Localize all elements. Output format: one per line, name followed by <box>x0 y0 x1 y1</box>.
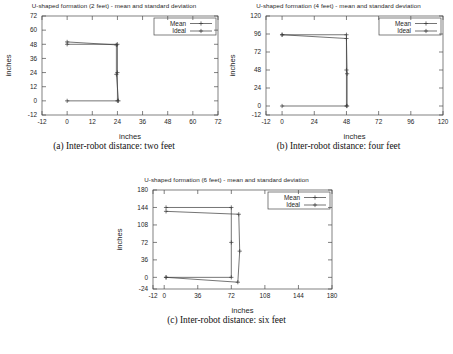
panel-b-chart: -12024487296120-12024487296120inchesinch… <box>226 9 451 141</box>
svg-text:72: 72 <box>30 12 38 19</box>
svg-text:180: 180 <box>327 292 338 299</box>
figure-panel-a: U-shaped formation (2 feet) - mean and s… <box>2 2 226 174</box>
panel-c-caption: (c) Inter-robot distance: six feet <box>113 315 340 325</box>
panel-a-chart: -120122436486072-120122436486072inchesin… <box>2 9 226 141</box>
panel-b-caption: (b) Inter-robot distance: four feet <box>226 141 451 151</box>
panel-c-chart: -2403672108144180-1203672108144180inches… <box>113 183 340 315</box>
svg-text:12: 12 <box>30 83 38 90</box>
svg-text:36: 36 <box>141 256 149 263</box>
panel-a-caption: (a) Inter-robot distance: two feet <box>2 141 226 151</box>
svg-text:48: 48 <box>164 118 172 125</box>
figure-panel-c: U-shaped formation (6 feet) - mean and s… <box>113 176 340 352</box>
svg-text:180: 180 <box>137 186 148 193</box>
svg-text:24: 24 <box>311 118 319 125</box>
svg-text:0: 0 <box>144 274 148 281</box>
svg-text:inches: inches <box>4 54 13 76</box>
svg-text:24: 24 <box>30 69 38 76</box>
svg-text:Ideal: Ideal <box>172 27 186 34</box>
svg-text:48: 48 <box>254 66 262 73</box>
svg-text:108: 108 <box>260 292 271 299</box>
svg-text:96: 96 <box>407 118 415 125</box>
svg-text:inches: inches <box>344 132 366 141</box>
svg-text:36: 36 <box>30 55 38 62</box>
svg-text:Mean: Mean <box>284 194 300 201</box>
svg-text:24: 24 <box>114 118 122 125</box>
panel-a-title: U-shaped formation (2 feet) - mean and s… <box>2 2 226 9</box>
svg-text:inches: inches <box>232 306 254 315</box>
figure-panel-b: U-shaped formation (4 feet) - mean and s… <box>226 2 451 174</box>
svg-text:0: 0 <box>65 118 69 125</box>
svg-text:Ideal: Ideal <box>397 27 411 34</box>
svg-text:0: 0 <box>257 102 261 109</box>
svg-text:-12: -12 <box>37 118 47 125</box>
svg-text:108: 108 <box>137 221 148 228</box>
svg-text:120: 120 <box>438 118 449 125</box>
svg-text:-12: -12 <box>261 118 271 125</box>
svg-text:72: 72 <box>141 239 149 246</box>
svg-text:72: 72 <box>254 48 262 55</box>
svg-text:0: 0 <box>280 118 284 125</box>
svg-text:36: 36 <box>139 118 147 125</box>
svg-text:72: 72 <box>214 118 222 125</box>
panel-b-title: U-shaped formation (4 feet) - mean and s… <box>226 2 451 9</box>
svg-text:-12: -12 <box>28 111 38 118</box>
svg-text:Mean: Mean <box>395 20 411 27</box>
svg-text:-12: -12 <box>252 111 262 118</box>
svg-text:-12: -12 <box>148 292 158 299</box>
svg-text:Mean: Mean <box>170 20 186 27</box>
svg-text:72: 72 <box>375 118 383 125</box>
svg-text:36: 36 <box>194 292 202 299</box>
panel-c-title: U-shaped formation (6 feet) - mean and s… <box>113 176 340 183</box>
svg-text:inches: inches <box>115 228 124 250</box>
svg-text:Ideal: Ideal <box>286 201 300 208</box>
svg-text:60: 60 <box>189 118 197 125</box>
svg-text:-24: -24 <box>139 285 149 292</box>
svg-text:0: 0 <box>162 292 166 299</box>
svg-text:12: 12 <box>89 118 97 125</box>
svg-text:inches: inches <box>119 132 141 141</box>
svg-text:48: 48 <box>30 41 38 48</box>
svg-text:inches: inches <box>228 54 237 76</box>
svg-text:96: 96 <box>254 30 262 37</box>
svg-text:48: 48 <box>343 118 351 125</box>
svg-text:72: 72 <box>228 292 236 299</box>
svg-text:24: 24 <box>254 84 262 91</box>
svg-text:0: 0 <box>33 97 37 104</box>
svg-text:144: 144 <box>293 292 304 299</box>
svg-text:144: 144 <box>137 204 148 211</box>
svg-text:120: 120 <box>250 12 261 19</box>
svg-text:60: 60 <box>30 26 38 33</box>
figure-container: U-shaped formation (2 feet) - mean and s… <box>0 0 453 354</box>
